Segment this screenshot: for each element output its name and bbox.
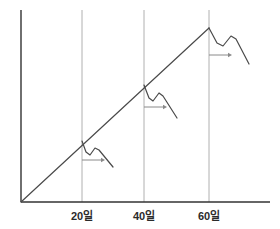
series-group <box>21 28 249 202</box>
series-branch-60 <box>209 28 249 64</box>
arrow-40-head <box>163 105 167 109</box>
chart-container: 20일 40일 60일 <box>0 0 280 229</box>
x-tick-label-40: 40일 <box>133 207 155 223</box>
x-tick-label-60: 60일 <box>198 207 220 223</box>
axes-group <box>21 10 270 202</box>
arrow-60-head <box>228 53 232 57</box>
series-trend-line <box>21 28 209 202</box>
arrow-20-head <box>101 158 105 162</box>
x-tick-label-20: 20일 <box>71 207 93 223</box>
series-branch-20 <box>82 141 113 167</box>
gridlines-group <box>82 10 209 202</box>
series-branch-40 <box>144 85 177 118</box>
chart-canvas <box>0 0 280 229</box>
